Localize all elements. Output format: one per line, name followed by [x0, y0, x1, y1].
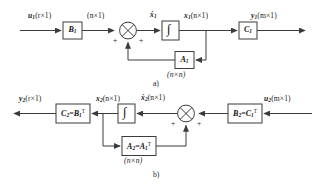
integrator-b-glyph: ∫	[123, 105, 127, 118]
label-a-feedback-dims: (n×n)	[167, 71, 185, 79]
figure-canvas: u1(r×1) B1 (n×1) + + ẋ1 ∫ x1(n×1) C1 y1(…	[0, 0, 319, 186]
label-a-output-signal: y1(m×1)	[251, 12, 277, 20]
sum-a-plus-left: +	[113, 37, 117, 45]
integrator-a-glyph: ∫	[167, 22, 171, 35]
sum-b-plus-left: +	[171, 120, 175, 128]
caption-b: b)	[153, 170, 159, 179]
caption-a: a)	[153, 79, 159, 88]
label-block-b-c2: C2=B1T	[56, 109, 90, 118]
label-block-b-b2: B2=C1T	[228, 109, 262, 118]
label-b-state-signal: x2(n×1)	[96, 95, 120, 103]
label-block-a-a1: A1	[175, 56, 194, 64]
label-block-a-c1: C1	[239, 26, 257, 34]
label-a-input-signal: u1(r×1)	[28, 12, 51, 20]
label-b-feedback-dims: (n×n)	[124, 157, 142, 165]
label-a-state-signal: x1(n×1)	[184, 12, 208, 20]
label-a-state-derivative: ẋ1	[150, 11, 157, 19]
label-block-b-a2: A2=A1T	[122, 142, 156, 151]
sum-b-plus-right: +	[197, 120, 201, 128]
sum-a-plus-right: +	[139, 37, 143, 45]
label-b-state-derivative: ẋ2(n×1)	[141, 94, 165, 102]
label-b-output-signal: y2(r×1)	[19, 95, 41, 103]
label-block-a-b1: B1	[63, 26, 82, 34]
label-a-signal-after-b1: (n×1)	[87, 12, 104, 20]
label-b-input-signal: u2(m×1)	[264, 95, 291, 103]
